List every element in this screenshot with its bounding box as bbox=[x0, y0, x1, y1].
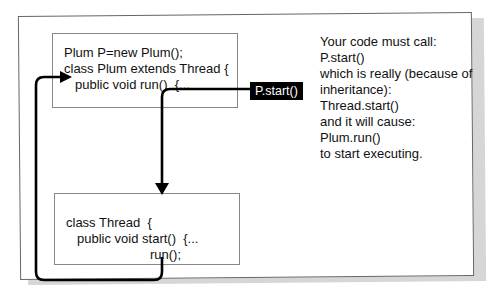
explanation-text: Your code must call: P.start() which is … bbox=[320, 34, 472, 162]
explanation-line: Thread.start() bbox=[320, 98, 472, 114]
explanation-line: which is really (because of bbox=[320, 66, 472, 82]
explanation-line: and it will cause: bbox=[320, 114, 472, 130]
arrow-right-icon bbox=[36, 71, 162, 280]
explanation-line: to start executing. bbox=[320, 146, 472, 162]
explanation-line: P.start() bbox=[320, 50, 472, 66]
arrow-down-icon bbox=[155, 89, 250, 195]
explanation-line: Your code must call: bbox=[320, 34, 472, 50]
explanation-line: inheritance): bbox=[320, 82, 472, 98]
p-start-callout: P.start() bbox=[250, 82, 303, 100]
explanation-line: Plum.run() bbox=[320, 130, 472, 146]
